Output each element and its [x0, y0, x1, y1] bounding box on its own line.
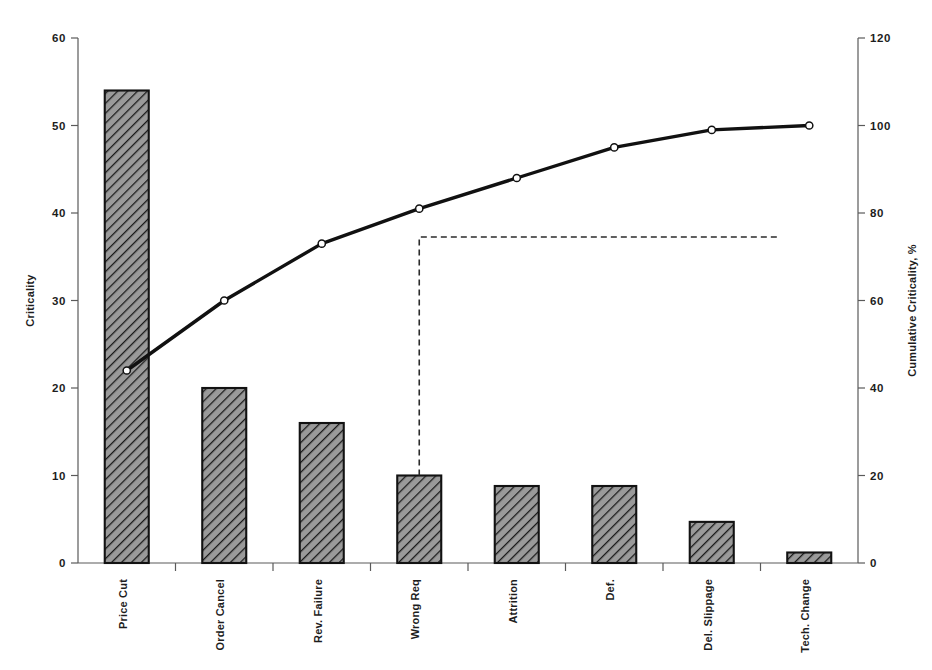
left-axis-tick-label: 50 [52, 120, 66, 132]
right-axis-tick-label: 0 [870, 557, 877, 569]
bar-rev-failure [300, 423, 344, 563]
bar-order-cancel [202, 388, 246, 563]
cumulative-point-marker [513, 174, 520, 181]
right-axis-tick-label: 120 [870, 32, 891, 44]
right-axis-tick-label: 100 [870, 120, 891, 132]
left-axis-tick-label: 20 [52, 382, 66, 394]
category-label-rev-failure: Rev. Failure [312, 579, 324, 643]
cumulative-point-marker [806, 122, 813, 129]
right-axis-tick-label: 20 [870, 470, 884, 482]
cumulative-point-marker [416, 205, 423, 212]
category-label-order-cancel: Order Cancel [214, 579, 226, 650]
pareto-chart: 0102030405060020406080100120 Price CutOr… [0, 0, 932, 670]
category-label-def: Def. [604, 579, 616, 601]
right-axis-tick-label: 80 [870, 207, 884, 219]
category-label-tech-change: Tech. Change [799, 579, 811, 653]
bar-price-cut [105, 91, 149, 564]
bar-wrong-req [397, 476, 441, 564]
category-label-price-cut: Price Cut [117, 579, 129, 629]
category-label-wrong-req: Wrong Req [409, 579, 421, 639]
right-axis-tick-label: 60 [870, 295, 884, 307]
cumulative-point-marker [708, 126, 715, 133]
cumulative-point-marker [221, 297, 228, 304]
cumulative-point-marker [318, 240, 325, 247]
bar-attrition [495, 486, 539, 563]
left-axis-tick-label: 10 [52, 470, 66, 482]
cumulative-point-marker [123, 367, 130, 374]
bar-def [592, 486, 636, 563]
cumulative-point-marker [611, 144, 618, 151]
category-label-attrition: Attrition [507, 579, 519, 624]
category-label-del-slippage: Del. Slippage [702, 579, 714, 651]
left-axis-tick-label: 40 [52, 207, 66, 219]
left-axis-tick-label: 0 [59, 557, 66, 569]
chart-canvas: 0102030405060020406080100120 Price CutOr… [0, 0, 932, 670]
left-axis-tick-label: 30 [52, 295, 66, 307]
right-axis-title: Cumulative Criticality, % [906, 244, 918, 377]
left-axis-tick-label: 60 [52, 32, 66, 44]
bar-del-slippage [690, 522, 734, 563]
bar-tech-change [787, 553, 831, 564]
left-axis-title: Criticality [24, 274, 36, 327]
right-axis-tick-label: 40 [870, 382, 884, 394]
